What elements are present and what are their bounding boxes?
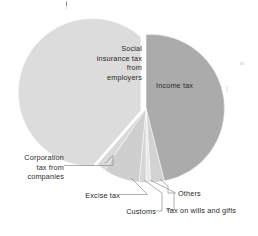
pie-label-customs: Customs (112, 207, 156, 217)
scan-speck (66, 8, 67, 9)
pie-label-others: Others (178, 189, 224, 199)
pie-label-social-insurance: Social insurance tax from employers (66, 44, 142, 82)
pie-label-excise-tax: Excise tax (62, 191, 120, 201)
pie-label-corporation-tax: Corporation tax from companies (2, 153, 64, 182)
pie-label-income-tax: Income tax (156, 81, 216, 91)
scan-speck (240, 62, 244, 65)
pie-label-wills-and-gifts: Tax on wills and gifts (166, 206, 256, 216)
scan-speck (226, 86, 228, 92)
scan-speck (66, 2, 67, 7)
pie-chart-figure: Social insurance tax from employers Inco… (0, 0, 258, 236)
pie-chart-graphic (0, 0, 258, 236)
